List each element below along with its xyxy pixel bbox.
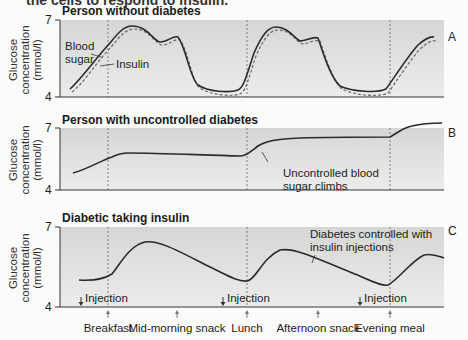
svg-text:Injection: Injection (85, 292, 128, 304)
panel-b-tag: B (448, 126, 456, 140)
panel-c-title: Diabetic taking insulin (62, 211, 189, 225)
y-axis-label: Glucose concentration (mmol/l) (7, 233, 43, 302)
uncontrolled-note-2: sugar climbs (283, 180, 348, 192)
meal-breakfast: Breakfast (84, 310, 133, 334)
svg-text:Glucose: Glucose (7, 247, 19, 289)
meal-lunch: Lunch (231, 310, 262, 334)
svg-text:concentration: concentration (19, 125, 31, 194)
svg-text:Mid-morning snack: Mid-morning snack (128, 322, 225, 334)
y-tick-label-7: 7 (45, 220, 52, 234)
svg-text:(mmol/l): (mmol/l) (31, 39, 43, 81)
y-tick-label-7: 7 (45, 13, 52, 27)
injection-lunch: Injection (221, 292, 270, 306)
svg-text:Breakfast: Breakfast (84, 322, 133, 334)
panel-c: Diabetic taking insulin C 7 4 Glucose co… (7, 211, 457, 314)
controlled-note: Diabetes controlled with (310, 228, 432, 240)
meal-evening-meal: Evening meal (355, 310, 425, 334)
injection-evening: Injection (358, 292, 407, 306)
svg-text:Evening meal: Evening meal (355, 322, 425, 334)
meal-mid-morning-snack: Mid-morning snack (128, 310, 225, 334)
panel-a-tag: A (448, 30, 456, 44)
svg-text:concentration: concentration (19, 233, 31, 302)
svg-text:(mmol/l): (mmol/l) (31, 139, 43, 181)
uncontrolled-note: Uncontrolled blood (283, 167, 379, 179)
injection-breakfast: Injection (79, 292, 128, 306)
svg-text:Glucose: Glucose (7, 139, 19, 181)
svg-text:Injection: Injection (227, 292, 270, 304)
panel-a-title: Person without diabetes (62, 4, 201, 18)
panel-b-title: Person with uncontrolled diabetes (62, 113, 258, 127)
svg-text:Glucose: Glucose (7, 39, 19, 81)
y-axis-label: Glucose concentration (mmol/l) (7, 25, 43, 94)
blood-sugar-label-2: sugar (65, 53, 94, 65)
svg-text:(mmol/l): (mmol/l) (31, 247, 43, 289)
panel-c-tag: C (448, 224, 457, 238)
y-tick-label-4: 4 (45, 300, 52, 314)
panel-a: Person without diabetes A 7 4 Glucose co… (7, 4, 456, 104)
panel-b: Person with uncontrolled diabetes B 7 4 … (7, 113, 456, 197)
svg-text:Injection: Injection (364, 292, 407, 304)
svg-text:Afternoon snack: Afternoon snack (276, 322, 359, 334)
svg-text:Lunch: Lunch (231, 322, 262, 334)
meal-afternoon-snack: Afternoon snack (276, 310, 359, 334)
svg-text:concentration: concentration (19, 25, 31, 94)
y-tick-label-4: 4 (45, 183, 52, 197)
y-tick-label-4: 4 (45, 90, 52, 104)
controlled-note-2: insulin injections (310, 241, 394, 253)
blood-sugar-label: Blood (65, 40, 94, 52)
meal-axis: Breakfast Mid-morning snack Lunch Aftern… (84, 310, 425, 334)
y-tick-label-7: 7 (45, 121, 52, 135)
y-axis-label: Glucose concentration (mmol/l) (7, 125, 43, 194)
insulin-label: Insulin (116, 58, 149, 70)
glucose-charts: Person without diabetes A 7 4 Glucose co… (0, 0, 468, 340)
